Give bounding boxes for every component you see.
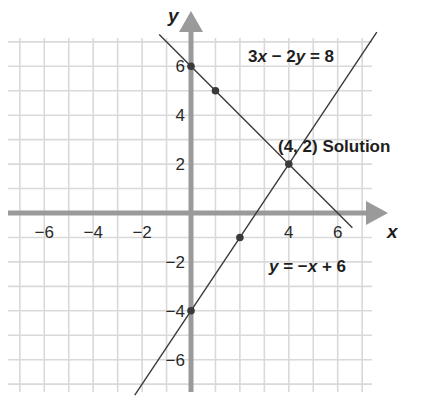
equation-label-3x-2y-8: 3x − 2y = 8 [248, 47, 334, 66]
x-axis-arrow-icon [366, 201, 388, 225]
x-tick-label: −4 [84, 223, 103, 242]
y-tick-label: −2 [166, 253, 185, 272]
data-point [236, 234, 244, 242]
equation-label-y-neg-x-6: y = −x + 6 [268, 257, 346, 276]
y-tick-label: 4 [176, 106, 185, 125]
data-point [212, 87, 220, 95]
y-tick-label: −4 [166, 302, 185, 321]
x-tick-label: 6 [333, 223, 342, 242]
x-tick-label: −2 [132, 223, 151, 242]
data-point [187, 307, 195, 315]
data-point [187, 63, 195, 71]
x-tick-label: 4 [284, 223, 293, 242]
coordinate-plane: −6−4−246642−2−4−6 y x 3x − 2y = 8 y = −x… [0, 0, 421, 398]
y-axis-label: y [167, 5, 180, 26]
x-tick-label: −6 [35, 223, 54, 242]
y-tick-label: 6 [176, 57, 185, 76]
y-tick-label: 2 [176, 155, 185, 174]
y-axis-arrow-icon [179, 11, 203, 32]
y-tick-label: −6 [166, 351, 185, 370]
x-axis-label: x [386, 221, 399, 242]
solution-point [285, 160, 293, 168]
solution-label: (4, 2) Solution [278, 137, 390, 156]
